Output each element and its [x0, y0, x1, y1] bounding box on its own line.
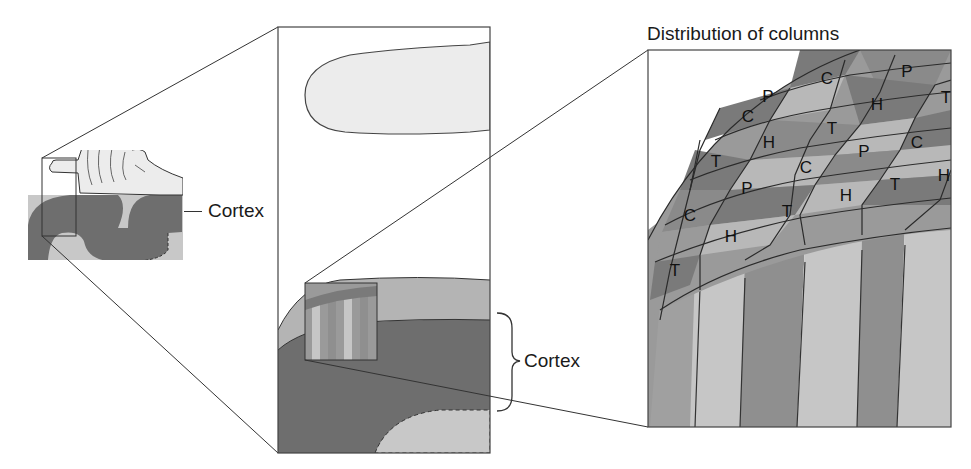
letter-c: C: [821, 69, 833, 88]
zoom-connector: [42, 236, 278, 453]
brace-icon: [497, 313, 520, 411]
cortex-label-middle: Cortex: [524, 350, 580, 372]
letter-h: H: [725, 227, 737, 246]
letter-t: T: [670, 261, 680, 280]
column-inset: [305, 283, 377, 360]
middle-panel: [278, 27, 520, 453]
letter-t: T: [890, 175, 900, 194]
cortex-label-text: Cortex: [208, 200, 264, 221]
letter-h: H: [938, 166, 950, 185]
letter-h: H: [840, 186, 852, 205]
figure-artwork: C P P H T C T H P C T C P T H C T H H T: [0, 0, 971, 469]
letter-t: T: [941, 88, 951, 107]
letter-p: P: [741, 179, 752, 198]
letter-c: C: [800, 158, 812, 177]
letter-c: C: [742, 107, 754, 126]
letter-h: H: [871, 95, 883, 114]
hand-illustration: [50, 138, 184, 195]
letter-p: P: [901, 62, 912, 81]
leader-line: [184, 211, 202, 212]
letter-t: T: [782, 202, 792, 221]
letter-h: H: [763, 133, 775, 152]
letter-p: P: [762, 87, 773, 106]
letter-p: P: [858, 142, 869, 161]
letter-c: C: [684, 206, 696, 225]
cortex-label-left: Cortex: [184, 200, 264, 222]
zoom-connector: [42, 27, 278, 158]
letter-t: T: [711, 152, 721, 171]
left-panel: [28, 138, 183, 262]
letter-t: T: [827, 119, 837, 138]
letter-c: C: [911, 133, 923, 152]
right-panel: C P P H T C T H P C T C P T H C T H H T: [648, 50, 951, 427]
panel-title: Distribution of columns: [647, 23, 839, 45]
